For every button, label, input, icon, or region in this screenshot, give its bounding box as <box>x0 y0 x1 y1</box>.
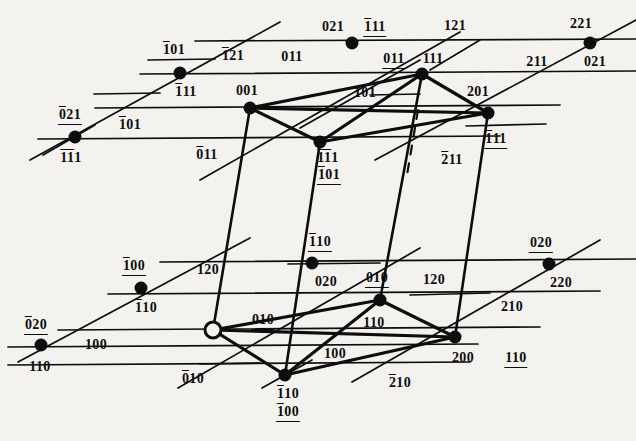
conn-111-010 <box>380 74 422 300</box>
node-010-110[interactable] <box>374 294 387 307</box>
label-100-mid: 100 <box>324 347 346 361</box>
label-100-left: 100 <box>85 338 107 352</box>
label-210-right: 210 <box>501 300 523 314</box>
label-2b11: 211 <box>441 153 462 167</box>
trace-h-stub-4 <box>466 124 546 126</box>
label-121-top: 121 <box>444 19 466 33</box>
label-120-right: 120 <box>423 273 445 287</box>
label-110: 110 <box>363 316 384 330</box>
label-021-right: 021 <box>584 55 606 69</box>
trace-h-stub-3 <box>370 94 420 95</box>
label-1b00: 100 <box>123 259 145 273</box>
node-0b20-1b10[interactable] <box>35 339 48 352</box>
label-200: 200 <box>452 351 474 365</box>
label-1b01-mid: 101 <box>119 118 141 132</box>
node-origin[interactable] <box>205 322 221 338</box>
trace-h-stub-6 <box>410 293 490 295</box>
node-1b01-1b11[interactable] <box>174 67 187 80</box>
conn-001-origin <box>213 108 250 330</box>
label-1b11-left: 111 <box>175 85 196 99</box>
label-220: 220 <box>550 276 572 290</box>
label-020-right: 020 <box>530 236 552 250</box>
conn-201-200 <box>455 113 488 337</box>
label-1b20: 120 <box>197 263 219 277</box>
node-020-220[interactable] <box>543 258 556 271</box>
label-010-mid: 010 <box>252 313 274 327</box>
edge-origin-n1b10 <box>213 330 285 375</box>
node-0b21-1b1b1[interactable] <box>69 131 82 144</box>
label-1b21: 121 <box>222 49 244 63</box>
label-1b10-left: 110 <box>135 301 157 315</box>
trace-h-4 <box>38 136 500 139</box>
label-0b21: 021 <box>59 108 81 122</box>
label-1b01-node: 101 <box>318 168 340 182</box>
label-011-top: 011 <box>281 50 302 64</box>
node-1b00-1b10[interactable] <box>135 282 148 295</box>
node-221-021[interactable] <box>584 37 597 50</box>
label-1b11-top: 111 <box>364 20 385 34</box>
edge-node8-201 <box>320 113 488 142</box>
label-1b11-right: 111 <box>485 132 506 146</box>
trace-h-6 <box>108 291 600 294</box>
label-1b10-node: 110 <box>309 235 331 249</box>
label-1b00-node2: 100 <box>277 405 299 419</box>
trace-h-1 <box>195 39 636 41</box>
node-021-1b11[interactable] <box>346 37 359 50</box>
label-1b10-node2: 110 <box>277 387 299 401</box>
trace-h-stub-7 <box>200 363 260 364</box>
label-111: 111 <box>423 52 444 66</box>
label-1b01-upper: 101 <box>163 43 185 57</box>
diagram-canvas: 1011210110211111212210111112110211110011… <box>0 0 636 441</box>
label-110-right: 110 <box>505 351 526 365</box>
label-1b11-nodeL: 111 <box>60 151 81 165</box>
label-1b1b1-node: 111 <box>317 151 338 165</box>
node-001[interactable] <box>244 102 257 115</box>
label-010-node: 010 <box>366 271 388 285</box>
label-011-under: 011 <box>383 52 404 66</box>
node-1b1b1-1b01[interactable] <box>314 136 327 149</box>
label-021-top: 021 <box>322 20 344 34</box>
node-011-111[interactable] <box>416 68 429 81</box>
node-201-1b11[interactable] <box>482 107 495 120</box>
label-020-mid: 020 <box>315 275 337 289</box>
label-001: 001 <box>236 84 258 98</box>
label-0b11: 011 <box>196 148 217 162</box>
label-1b10-bottom: 110 <box>29 360 50 374</box>
label-211: 211 <box>526 55 547 69</box>
label-0b10: 010 <box>182 372 204 386</box>
edge-010-200 <box>380 300 455 337</box>
label-2b10: 210 <box>389 376 411 390</box>
label-101: 101 <box>354 86 376 100</box>
node-1b10-1b00[interactable] <box>279 369 292 382</box>
label-221-top: 221 <box>570 17 592 31</box>
label-201: 201 <box>467 85 489 99</box>
node-200[interactable] <box>449 331 462 344</box>
trace-h-7 <box>58 327 540 330</box>
node-1b10-020[interactable] <box>306 257 319 270</box>
label-0b20: 020 <box>25 318 47 332</box>
